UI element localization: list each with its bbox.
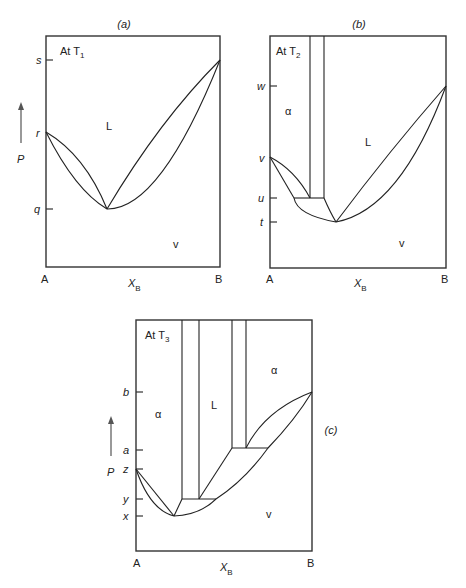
panel-c: At T3 (c) b a z y x P [107, 320, 338, 577]
panel-b: (b) At T2 w v u t α L v A B XB [257, 18, 448, 293]
curve-liquidus-left [46, 132, 107, 209]
panel-a: (a) At T1 s r q P L v A B XB [17, 18, 222, 293]
region-label-alpha: α [285, 105, 292, 117]
tick-label-w: w [257, 80, 266, 92]
curve-alpha-vapor-upper [270, 157, 294, 198]
curve-solidus-right [246, 392, 312, 448]
curve-vaporus-right [268, 392, 312, 448]
tick-label-y: y [122, 493, 130, 505]
arrow-head-icon [18, 102, 24, 110]
curve-liquidus-right [336, 86, 446, 222]
region-label-vapor: v [173, 238, 179, 250]
tick-label-u: u [258, 192, 264, 204]
curve-vapor-middle [216, 448, 268, 499]
tick-label-s: s [36, 54, 42, 66]
panel-c-caption: (c) [325, 424, 338, 436]
p-axis-label: P [107, 466, 115, 478]
region-label-alpha-left: α [155, 408, 162, 420]
axis-end-A: A [133, 557, 141, 569]
tick-label-r: r [36, 127, 41, 139]
panel-c-frame [136, 320, 312, 551]
tick-label-b: b [123, 386, 129, 398]
phase-diagram-figure: (a) At T1 s r q P L v A B XB (b) At T2 w… [0, 0, 466, 588]
axis-end-A: A [266, 273, 274, 285]
tick-label-a: a [123, 444, 129, 456]
region-label-alpha-right: α [271, 364, 278, 376]
tick-label-q: q [34, 203, 41, 215]
region-label-vapor: v [399, 237, 405, 249]
panel-c-temperature-label: At T3 [145, 329, 170, 344]
tick-label-x: x [122, 510, 129, 522]
curve-vaporus-right [107, 60, 220, 209]
x-axis-label: XB [127, 277, 141, 293]
region-label-liquid: L [365, 136, 371, 148]
axis-end-B: B [215, 273, 222, 285]
curve-liquidus-left [136, 469, 174, 516]
x-axis-label: XB [353, 277, 367, 293]
panel-b-temperature-label: At T2 [276, 45, 301, 60]
curve-vaporus-right [336, 86, 446, 222]
region-label-vapor: v [266, 508, 272, 520]
p-axis-label: P [17, 153, 25, 165]
tick-label-t: t [260, 216, 264, 228]
curve-liquid-lower [174, 499, 182, 516]
tick-label-v: v [259, 152, 266, 164]
curve-liquidus-right [107, 60, 220, 209]
axis-end-B: B [307, 557, 314, 569]
tick-label-z: z [122, 463, 129, 475]
curve-vaporus-left [46, 132, 107, 209]
region-label-liquid: L [106, 120, 112, 132]
panel-a-frame [46, 36, 220, 267]
panel-b-caption: (b) [352, 18, 366, 30]
panel-a-temperature-label: At T1 [60, 45, 85, 60]
curve-liquid-lower-left [324, 198, 336, 222]
region-label-liquid: L [211, 399, 217, 411]
arrow-head-icon [108, 416, 114, 424]
axis-end-B: B [441, 273, 448, 285]
x-axis-label: XB [219, 561, 233, 577]
panel-b-frame [270, 36, 446, 268]
axis-end-A: A [41, 273, 49, 285]
panel-a-caption: (a) [117, 18, 131, 30]
